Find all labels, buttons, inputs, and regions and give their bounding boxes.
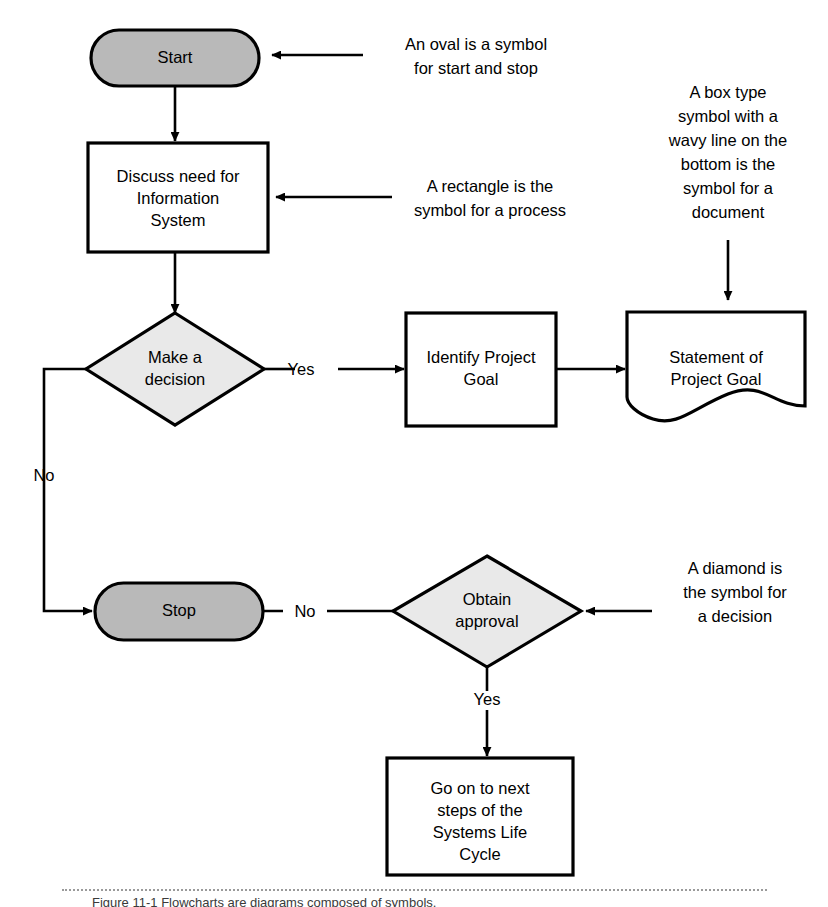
obtain-approval-line-2: approval: [455, 612, 518, 630]
node-discuss-need[interactable]: Discuss need for Information System: [88, 143, 268, 252]
make-decision-line-1: Make a: [148, 348, 203, 366]
annotation-document: A box type symbol with a wavy line on th…: [668, 83, 787, 221]
statement-goal-line-1: Statement of: [669, 348, 763, 366]
annotation-rectangle-line-1: A rectangle is the: [427, 177, 554, 195]
discuss-line-3: System: [150, 211, 205, 229]
flowchart-diagram: Start Discuss need for Information Syste…: [0, 0, 828, 907]
node-next-steps[interactable]: Go on to next steps of the Systems Life …: [387, 758, 573, 875]
annotation-diamond-line-1: A diamond is: [688, 559, 782, 577]
annotation-oval-line-2: for start and stop: [414, 59, 538, 77]
discuss-line-1: Discuss need for: [117, 167, 240, 185]
node-stop[interactable]: Stop: [95, 583, 263, 640]
edge-label-approval-yes: Yes: [474, 690, 501, 708]
statement-document-shape: [627, 312, 805, 421]
discuss-line-2: Information: [137, 189, 220, 207]
make-decision-diamond-shape: [86, 313, 264, 425]
annotation-document-line-6: document: [692, 203, 765, 221]
annotation-rectangle: A rectangle is the symbol for a process: [414, 177, 566, 219]
edge-label-decision-yes: Yes: [288, 360, 315, 378]
next-steps-line-3: Systems Life: [433, 823, 527, 841]
edge-label-decision-no: No: [33, 466, 54, 484]
obtain-approval-line-1: Obtain: [463, 590, 512, 608]
node-obtain-approval[interactable]: Obtain approval: [393, 556, 581, 667]
annotation-document-line-2: symbol with a: [678, 107, 779, 125]
next-steps-line-4: Cycle: [459, 845, 500, 863]
identify-goal-line-2: Goal: [464, 370, 499, 388]
make-decision-line-2: decision: [145, 370, 206, 388]
annotation-document-line-4: bottom is the: [681, 155, 775, 173]
annotation-oval-line-1: An oval is a symbol: [405, 35, 547, 53]
figure-caption: Figure 11-1 Flowcharts are diagrams comp…: [92, 895, 792, 907]
identify-goal-line-1: Identify Project: [426, 348, 536, 366]
next-steps-line-2: steps of the: [437, 801, 522, 819]
caption-divider: [62, 889, 767, 891]
statement-goal-line-2: Project Goal: [671, 370, 762, 388]
flowchart-canvas: Start Discuss need for Information Syste…: [0, 0, 828, 907]
node-make-a-decision[interactable]: Make a decision: [86, 313, 264, 425]
connector-decision-no-to-stop: [44, 369, 92, 611]
edge-label-approval-no: No: [294, 602, 315, 620]
annotation-oval: An oval is a symbol for start and stop: [405, 35, 547, 77]
node-statement-of-project-goal[interactable]: Statement of Project Goal: [627, 312, 805, 421]
annotation-document-line-3: wavy line on the: [668, 131, 787, 149]
node-identify-project-goal[interactable]: Identify Project Goal: [406, 313, 556, 426]
node-start[interactable]: Start: [91, 30, 259, 86]
annotation-diamond-line-2: the symbol for: [683, 583, 787, 601]
annotation-document-line-5: symbol for a: [683, 179, 774, 197]
annotation-diamond: A diamond is the symbol for a decision: [683, 559, 787, 625]
annotation-document-line-1: A box type: [689, 83, 766, 101]
next-steps-line-1: Go on to next: [430, 779, 529, 797]
stop-label: Stop: [162, 601, 196, 619]
annotation-diamond-line-3: a decision: [698, 607, 772, 625]
start-label: Start: [158, 48, 193, 66]
annotation-rectangle-line-2: symbol for a process: [414, 201, 566, 219]
